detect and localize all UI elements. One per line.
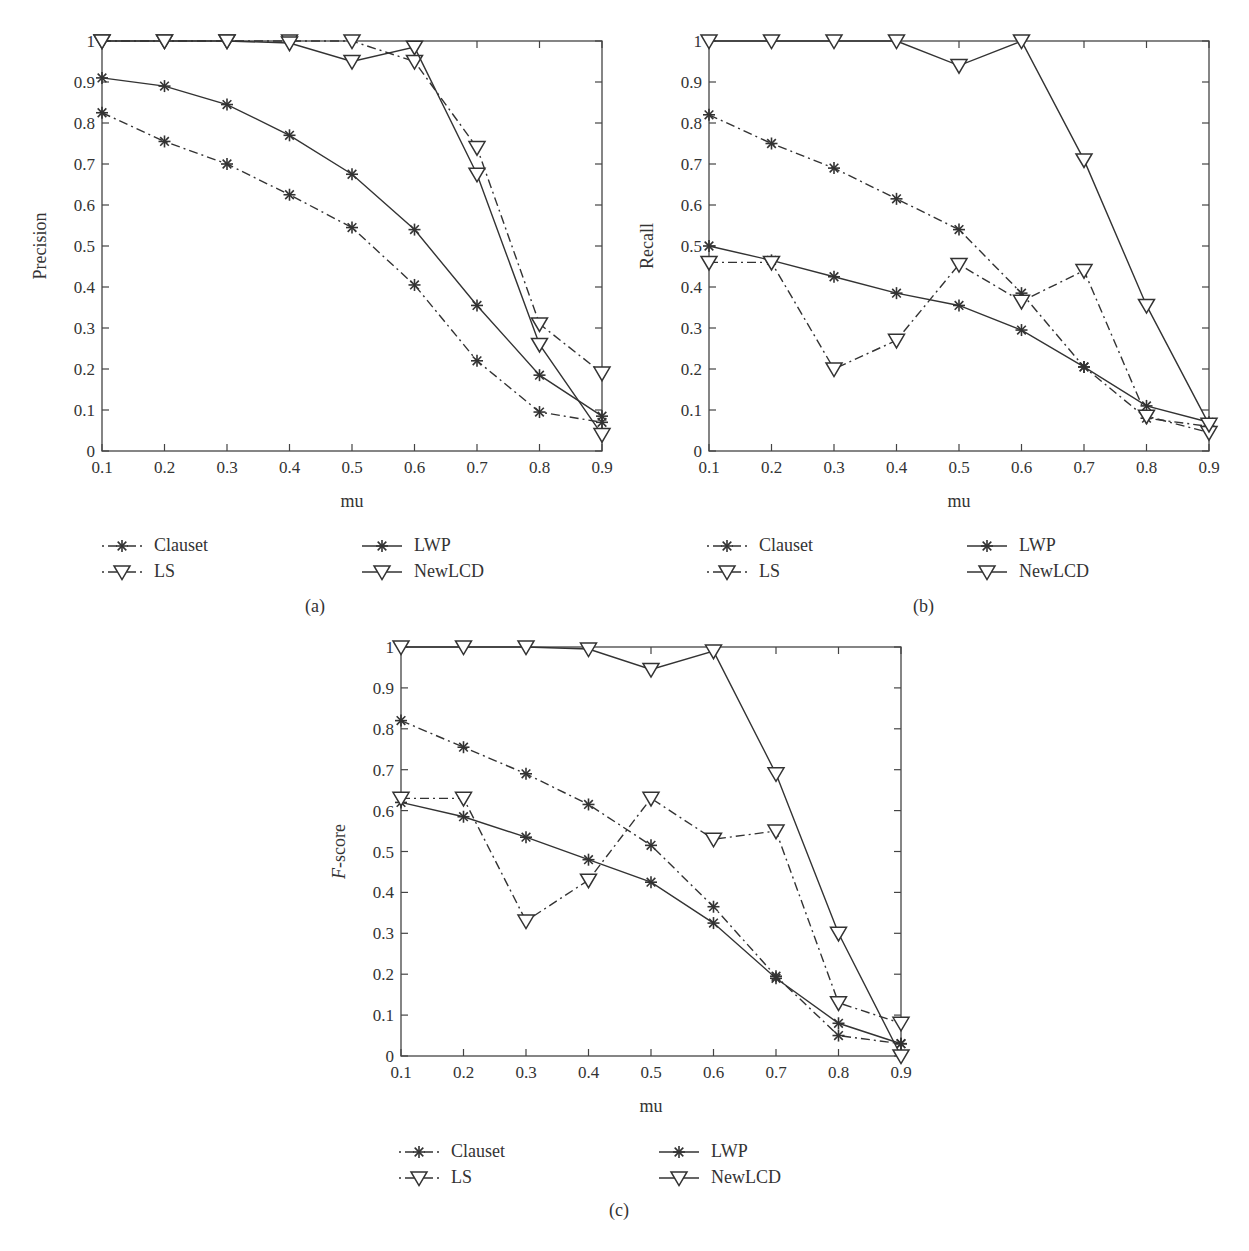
asterisk-marker — [770, 972, 782, 984]
y-tick-label: 0.6 — [373, 802, 394, 821]
asterisk-marker — [458, 811, 470, 823]
triangle-down-marker — [581, 643, 597, 657]
plot-frame — [401, 647, 901, 1056]
triangle-down-marker — [643, 663, 659, 677]
asterisk-marker — [708, 901, 720, 913]
triangle-down-marker — [831, 997, 847, 1011]
legend-swatch-icon — [397, 1142, 441, 1162]
x-tick-label: 0.5 — [640, 1063, 661, 1082]
y-tick-label: 0.1 — [373, 1006, 394, 1025]
triangle-down-marker — [393, 641, 409, 655]
y-tick-label: 0.9 — [373, 679, 394, 698]
asterisk-marker — [645, 839, 657, 851]
triangle-down-marker — [893, 1050, 909, 1064]
y-tick-label: 0.8 — [373, 720, 394, 739]
x-tick-label: 0.9 — [890, 1063, 911, 1082]
asterisk-marker — [520, 768, 532, 780]
legend-item-ls: LS — [397, 1167, 472, 1188]
legend-swatch-icon — [657, 1168, 701, 1188]
legend-item-newlcd: NewLCD — [657, 1167, 781, 1188]
triangle-down-marker — [893, 1017, 909, 1031]
asterisk-marker — [708, 917, 720, 929]
triangle-down-marker — [643, 792, 659, 806]
legend-item-clauset: Clauset — [397, 1141, 505, 1162]
asterisk-marker — [583, 854, 595, 866]
series-newlcd — [393, 641, 909, 1064]
triangle-down-marker — [768, 825, 784, 839]
legend-swatch-icon — [397, 1168, 441, 1188]
x-tick-label: 0.4 — [578, 1063, 600, 1082]
legend-label: LS — [451, 1167, 472, 1188]
y-tick-label: 0.5 — [373, 843, 394, 862]
legend-item-lwp: LWP — [657, 1141, 748, 1162]
triangle-down-marker — [456, 792, 472, 806]
legend-swatch-icon — [657, 1142, 701, 1162]
asterisk-marker — [583, 798, 595, 810]
asterisk-marker — [520, 831, 532, 843]
asterisk-marker — [833, 1017, 845, 1029]
x-axis-label: mu — [639, 1096, 662, 1116]
triangle-down-marker — [581, 874, 597, 888]
triangle-down-marker — [831, 927, 847, 941]
legend-c: ClausetLWPLSNewLCD — [397, 1141, 877, 1201]
x-tick-label: 0.7 — [765, 1063, 787, 1082]
legend-label: NewLCD — [711, 1167, 781, 1188]
legend-label: LWP — [711, 1141, 748, 1162]
asterisk-marker — [833, 1030, 845, 1042]
x-tick-label: 0.2 — [453, 1063, 474, 1082]
chart-panel-c: 00.10.20.30.40.50.60.70.80.910.10.20.30.… — [0, 0, 1249, 1251]
series-ls — [393, 792, 909, 1031]
caption-c: (c) — [609, 1200, 629, 1221]
triangle-down-marker — [706, 833, 722, 847]
series-lwp — [395, 796, 907, 1049]
x-tick-label: 0.6 — [703, 1063, 724, 1082]
x-tick-label: 0.8 — [828, 1063, 849, 1082]
chart-c-svg: 00.10.20.30.40.50.60.70.80.910.10.20.30.… — [0, 0, 1249, 1130]
triangle-down-marker — [706, 645, 722, 659]
triangle-down-marker — [671, 1172, 687, 1186]
asterisk-marker — [458, 741, 470, 753]
y-tick-label: 0.2 — [373, 965, 394, 984]
y-axis-label: F-score — [329, 824, 349, 880]
x-tick-label: 0.1 — [390, 1063, 411, 1082]
legend-label: Clauset — [451, 1141, 505, 1162]
y-tick-label: 0.4 — [373, 883, 395, 902]
y-tick-label: 0.3 — [373, 924, 394, 943]
triangle-down-marker — [518, 915, 534, 929]
y-tick-label: 0.7 — [373, 761, 395, 780]
triangle-down-marker — [411, 1172, 427, 1186]
asterisk-marker — [673, 1146, 685, 1158]
triangle-down-marker — [456, 641, 472, 655]
asterisk-marker — [395, 715, 407, 727]
triangle-down-marker — [768, 768, 784, 782]
asterisk-marker — [645, 876, 657, 888]
asterisk-marker — [413, 1146, 425, 1158]
x-tick-label: 0.3 — [515, 1063, 536, 1082]
